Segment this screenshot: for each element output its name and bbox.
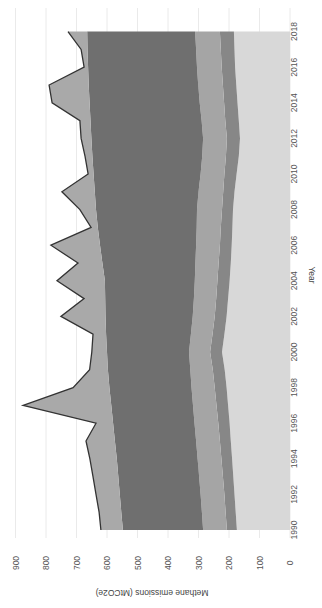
value-axis-ticks: 0100200300400500600700800900 <box>11 556 296 570</box>
value-axis-title: Methane emissions (MtCO2e) <box>95 588 208 598</box>
value-tick-label: 100 <box>255 556 265 570</box>
year-tick-label: 1996 <box>289 413 299 432</box>
year-tick-label: 2014 <box>289 93 299 112</box>
year-tick-label: 2000 <box>289 342 299 361</box>
year-tick-label: 2016 <box>289 57 299 76</box>
year-axis-ticks: 1990199219941996199820002002200420062008… <box>289 22 299 540</box>
value-tick-label: 900 <box>11 556 21 570</box>
year-tick-label: 2008 <box>289 200 299 219</box>
value-tick-label: 500 <box>133 556 143 570</box>
year-tick-label: 2010 <box>289 164 299 183</box>
year-tick-label: 2006 <box>289 235 299 254</box>
value-tick-label: 400 <box>163 556 173 570</box>
stacked-areas <box>23 32 290 530</box>
value-tick-label: 700 <box>72 556 82 570</box>
value-tick-label: 300 <box>194 556 204 570</box>
methane-emissions-area-chart: 0100200300400500600700800900 19901992199… <box>0 0 322 608</box>
year-axis-title: Year <box>307 266 317 283</box>
value-tick-label: 800 <box>41 556 51 570</box>
year-tick-label: 1990 <box>289 520 299 539</box>
value-tick-label: 600 <box>102 556 112 570</box>
year-tick-label: 1994 <box>289 449 299 468</box>
year-tick-label: 1992 <box>289 485 299 504</box>
value-tick-label: 0 <box>285 560 295 565</box>
value-tick-label: 200 <box>224 556 234 570</box>
year-tick-label: 2002 <box>289 307 299 326</box>
year-tick-label: 1998 <box>289 378 299 397</box>
year-tick-label: 2012 <box>289 129 299 148</box>
year-tick-label: 2018 <box>289 22 299 41</box>
year-tick-label: 2004 <box>289 271 299 290</box>
